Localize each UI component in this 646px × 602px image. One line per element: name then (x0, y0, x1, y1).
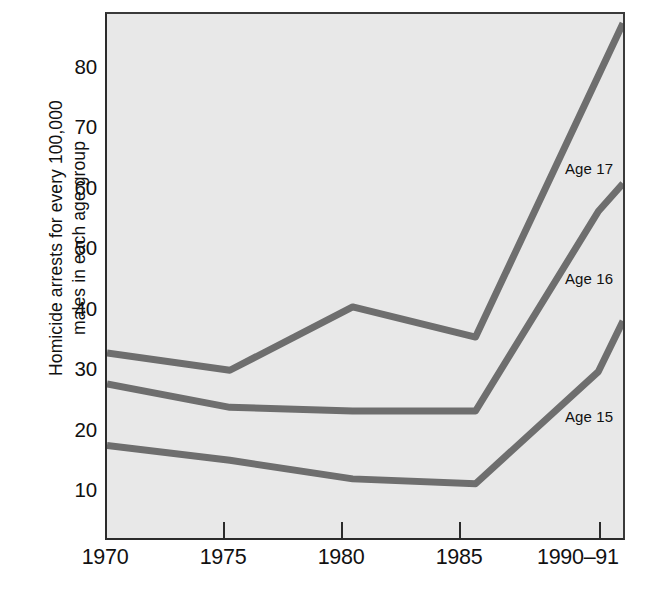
x-tick-label-1970: 1970 (63, 545, 147, 570)
figure-caption (0, 592, 646, 602)
series-annotation-age-15: Age 15 (565, 408, 613, 425)
series-annotation-age-17: Age 17 (565, 160, 613, 177)
x-tick-mark-1990-91 (599, 522, 601, 540)
x-tick-mark-1980 (341, 522, 343, 540)
y-tick-label-40: 40 (47, 297, 97, 321)
x-tick-label-1980: 1980 (299, 545, 383, 570)
x-tick-label-1975: 1975 (181, 545, 265, 570)
x-tick-label-1985: 1985 (417, 545, 501, 570)
y-tick-label-70: 70 (47, 115, 97, 139)
y-tick-label-30: 30 (47, 357, 97, 381)
x-tick-mark-1985 (459, 522, 461, 540)
series-annotation-age-16: Age 16 (565, 270, 613, 287)
series-lines-svg (107, 14, 623, 538)
series-line-age-16 (107, 184, 623, 411)
series-line-age-17 (107, 23, 623, 370)
y-tick-label-50: 50 (47, 236, 97, 260)
x-tick-mark-1975 (223, 522, 225, 540)
plot-area (105, 12, 625, 540)
chart-figure: Homicide arrests for every 100,000 males… (0, 0, 646, 602)
x-tick-label-1990-91: 1990–91 (537, 545, 646, 570)
series-line-age-15 (107, 321, 623, 484)
y-tick-label-60: 60 (47, 176, 97, 200)
y-tick-label-10: 10 (47, 478, 97, 502)
y-tick-label-20: 20 (47, 418, 97, 442)
y-tick-label-80: 80 (47, 55, 97, 79)
